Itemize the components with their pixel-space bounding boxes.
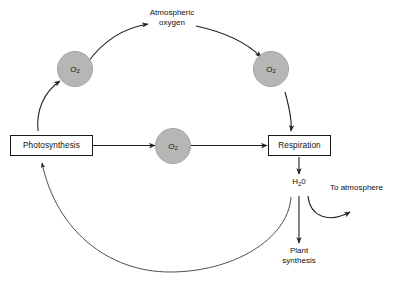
connector-o2-upper-right-to-respiration <box>285 92 291 131</box>
label-atmospheric-oxygen-line2: oxygen <box>136 18 208 28</box>
label-water: H20 <box>279 177 319 187</box>
node-o2-upper-left-subscript: 2 <box>76 68 79 74</box>
label-plant-synthesis: Plant synthesis <box>268 246 330 266</box>
connector-water-to-atmosphere <box>308 196 350 218</box>
connector-o2-upper-left-to-o2-upper-right <box>88 24 148 62</box>
node-photosynthesis-label: Photosynthesis <box>23 141 80 150</box>
label-to-atmosphere-text: To atmosphere <box>330 183 383 192</box>
node-o2-upper-right-subscript: 2 <box>272 68 275 74</box>
label-water-suffix: 0 <box>301 177 305 186</box>
node-o2-center[interactable]: O2 <box>155 128 191 164</box>
label-water-subscript: 2 <box>298 181 301 187</box>
connector-atmospheric-span <box>196 26 261 57</box>
node-o2-upper-left[interactable]: O2 <box>57 51 93 87</box>
label-to-atmosphere: To atmosphere <box>330 183 408 193</box>
node-photosynthesis[interactable]: Photosynthesis <box>10 135 93 156</box>
oxygen-cycle-diagram: Photosynthesis Respiration O2 O2 O2 Atmo… <box>0 0 411 286</box>
node-respiration-label: Respiration <box>278 141 321 150</box>
label-plant-synthesis-line1: Plant <box>268 246 330 256</box>
node-o2-center-subscript: 2 <box>174 145 177 151</box>
connector-water-to-photosynthesis-bottom-arc <box>42 163 291 272</box>
node-respiration[interactable]: Respiration <box>268 135 331 156</box>
connector-photosynthesis-to-o2-upper-left <box>38 81 60 131</box>
label-atmospheric-oxygen: Atmospheric oxygen <box>136 8 208 28</box>
label-atmospheric-oxygen-line1: Atmospheric <box>136 8 208 18</box>
node-o2-upper-right[interactable]: O2 <box>253 51 289 87</box>
label-plant-synthesis-line2: synthesis <box>268 256 330 266</box>
